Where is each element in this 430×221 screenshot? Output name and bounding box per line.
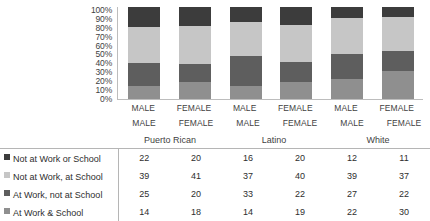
bar-segment [382,17,414,51]
table-cell: 22 [274,185,326,203]
table-cell: 12 [326,149,378,168]
bar-segment [230,56,262,86]
bar-segment [128,7,160,27]
bar-slot [220,7,271,99]
bar-segment [382,71,414,99]
table-cell: 33 [222,185,274,203]
table-row: Not at Work, at School 39 41 37 40 39 37 [0,167,430,185]
table-header-row-group: Puerto Rican Latino White [0,131,430,149]
bar-slot [372,7,423,99]
y-axis-tick: 40% [96,59,112,67]
bar-segment [331,18,363,54]
table-cell: 37 [222,167,274,185]
legend-item-not-at-work-at-school: Not at Work, at School [0,167,118,185]
y-axis: 100% 90% 80% 70% 60% 50% 40% 30% 20% 10%… [60,6,112,103]
x-axis-tick-label: FEMALE [270,101,321,115]
y-axis-tick: 80% [96,24,112,32]
table-row: Not at Work or School 22 20 16 20 12 11 [0,149,430,168]
bar-slot [271,7,322,99]
group-header-white: White [326,131,430,149]
table-cell: 20 [170,185,222,203]
x-axis-tick-label: FEMALE [169,101,220,115]
table-cell: 41 [170,167,222,185]
legend-label: Not at Work or School [13,153,101,163]
stacked-bar[interactable] [179,7,211,99]
table-cell: 37 [378,167,430,185]
bar-slot [170,7,221,99]
bar-segment [128,86,160,99]
y-axis-tick: 0% [100,95,112,103]
table-row: At Work & School 14 18 14 19 22 30 [0,203,430,221]
bar-segment [331,54,363,79]
data-table: MALE FEMALE MALE FEMALE MALE FEMALE Puer… [0,115,430,221]
table-cell: 18 [170,203,222,221]
table-cell: 22 [118,149,170,168]
group-header-puerto-rican: Puerto Rican [118,131,222,149]
table-cell: 40 [274,167,326,185]
legend-swatch-icon [4,172,10,178]
legend-swatch-icon [4,190,10,196]
table-cell: 11 [378,149,430,168]
table-cell: 16 [222,149,274,168]
bar-segment [179,64,211,83]
column-header-male: MALE [326,115,378,131]
column-header-female: FEMALE [378,115,430,131]
legend-label: At Work & School [13,207,83,217]
legend-item-at-work-not-at-school: At Work, not at School [0,185,118,203]
stacked-bar[interactable] [382,7,414,99]
y-axis-tick: 10% [96,86,112,94]
table-row: At Work, not at School 25 20 33 22 27 22 [0,185,430,203]
bar-slot [119,7,170,99]
table-cell: 39 [326,167,378,185]
y-axis-tick: 30% [96,68,112,76]
x-axis-tick-label: MALE [219,101,270,115]
y-axis-tick: 20% [96,77,112,85]
column-header-male: MALE [118,115,170,131]
stacked-bar[interactable] [280,7,312,99]
chart-with-data-table: 100% 90% 80% 70% 60% 50% 40% 30% 20% 10%… [0,0,430,221]
bar-segment [179,82,211,99]
bar-segment [230,22,262,56]
bar-slot [322,7,373,99]
bar-segment [128,63,160,86]
table-cell: 19 [274,203,326,221]
y-axis-tick: 60% [96,42,112,50]
legend-swatch-icon [4,154,10,160]
bar-segment [382,51,414,71]
table-cell: 14 [222,203,274,221]
legend-label: At Work, not at School [13,189,102,199]
y-axis-tick: 70% [96,33,112,41]
table-cell: 20 [170,149,222,168]
table-cell: 27 [326,185,378,203]
table-cell: 30 [378,203,430,221]
table-cell: 22 [326,203,378,221]
x-axis-tick-label: MALE [321,101,372,115]
group-header-latino: Latino [222,131,326,149]
column-header-male: MALE [222,115,274,131]
plot-area [117,7,423,99]
table-cell: 22 [378,185,430,203]
bar-segment [230,86,262,99]
column-header-female: FEMALE [170,115,222,131]
bar-segment [179,7,211,26]
bar-series-container [119,7,423,99]
x-axis-tick-label: FEMALE [371,101,422,115]
bar-segment [128,27,160,63]
bar-segment [331,79,363,99]
table-corner-cell [0,115,118,131]
stacked-bar[interactable] [331,7,363,99]
table-cell: 14 [118,203,170,221]
y-axis-tick: 50% [96,50,112,58]
stacked-bar[interactable] [128,7,160,99]
data-table-grid: MALE FEMALE MALE FEMALE MALE FEMALE Puer… [0,115,430,221]
bar-segment [280,7,312,25]
x-axis-line [117,99,423,100]
bar-segment [280,82,312,99]
stacked-bar-chart: 100% 90% 80% 70% 60% 50% 40% 30% 20% 10%… [0,0,430,118]
stacked-bar[interactable] [230,7,262,99]
table-corner-cell [0,131,118,149]
legend-item-at-work-and-school: At Work & School [0,203,118,221]
table-cell: 39 [118,167,170,185]
table-cell: 25 [118,185,170,203]
bar-segment [331,7,363,18]
